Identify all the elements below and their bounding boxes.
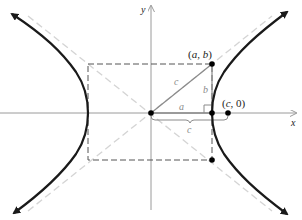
hypotenuse-label: c — [174, 76, 179, 87]
corner-point-a-b — [209, 61, 215, 67]
hyperbola-left-branch-upper — [12, 14, 88, 113]
brace-label: c — [187, 124, 192, 135]
focus-point-c-0 — [225, 110, 231, 116]
vertex-point — [209, 110, 215, 116]
right-triangle: c a b — [151, 64, 212, 113]
c-brace: c — [151, 116, 228, 135]
hyperbola-diagram: x y c a b c (a, b) (c, 0) — [0, 0, 302, 220]
leg-a-label: a — [179, 101, 184, 112]
y-axis-label: y — [140, 4, 146, 15]
hyperbola-left-branch-lower — [14, 113, 88, 213]
axes: x y — [0, 4, 296, 210]
hyperbola-right-branch-lower — [212, 113, 287, 214]
focus-label: (c, 0) — [222, 97, 246, 110]
origin-point — [148, 110, 154, 116]
x-axis-label: x — [290, 117, 296, 128]
corner-point-lower — [209, 157, 215, 163]
points — [148, 61, 231, 163]
leg-b-label: b — [203, 84, 208, 95]
corner-label: (a, b) — [188, 48, 212, 61]
